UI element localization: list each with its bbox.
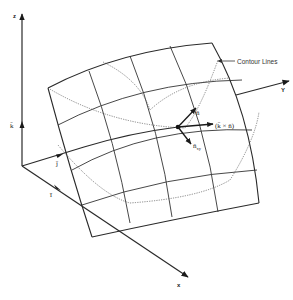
x-axis-label: x — [177, 282, 181, 288]
diagram-canvas: z k̄ Y j̄ x ī n̄ (k̄ × n̄) n̄xy Contour … — [0, 0, 293, 300]
projection-vector-subscript: xy — [197, 146, 202, 151]
j-unit-label: j̄ — [55, 160, 59, 168]
cross-vector-arrow — [178, 124, 213, 127]
normal-vector-label: n̄ — [196, 109, 200, 117]
surface-point — [176, 108, 213, 144]
z-axis-label: z — [13, 13, 16, 19]
k-unit-arrow-icon — [20, 121, 25, 128]
contour-lines-label: Contour Lines — [237, 58, 278, 65]
projection-vector-label: n̄xy — [193, 142, 202, 151]
i-unit-label: ī — [49, 191, 53, 199]
y-axis-label: Y — [281, 87, 285, 93]
k-unit-label: k̄ — [10, 122, 14, 130]
projection-vector-arrow — [178, 127, 191, 144]
j-unit-arrow-icon — [56, 154, 63, 158]
cross-vector-label: (k̄ × n̄) — [215, 122, 235, 130]
y-axis — [22, 81, 289, 166]
z-axis — [20, 14, 25, 166]
normal-vector-arrow — [178, 108, 196, 127]
contour-leader-arrow-icon — [217, 59, 222, 63]
surface-patch — [48, 43, 259, 237]
